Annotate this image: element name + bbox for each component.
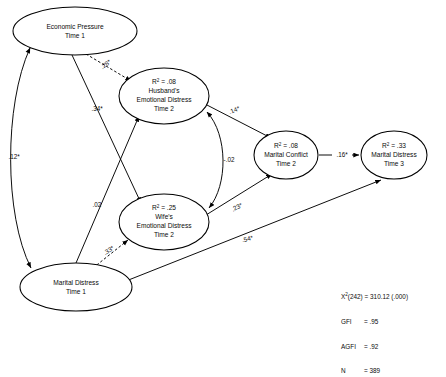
node-layer: Economic Pressure Time 1 R2 = .08 Husban…	[13, 7, 427, 311]
node-marital-conflict-t2[interactable]: R2 = .08 Marital Conflict Time 2	[254, 131, 318, 179]
edge-label-ep-corr-md1: .12*	[8, 153, 20, 160]
agfi-value: = .92	[364, 343, 378, 350]
node-label-line1: Economic Pressure	[46, 23, 104, 30]
node-label-line1: Marital Distress	[371, 151, 417, 158]
node-label-line1: Marital Distress	[53, 279, 99, 286]
edge-ep-to-husband	[86, 54, 131, 81]
node-r2: R2 = .33	[382, 142, 406, 150]
edge-label-husband-to-conflict: .14*	[227, 104, 241, 115]
fit-stat-chisquare: X2(242) = 310.12 (.000)	[341, 291, 408, 301]
edge-label-wife-to-conflict: .23*	[230, 201, 244, 213]
node-economic-pressure-t1[interactable]: Economic Pressure Time 1	[13, 7, 137, 55]
node-ellipse[interactable]	[13, 7, 137, 55]
edge-label-ep-to-wife: .34*	[91, 105, 103, 112]
fit-statistics-block: X2(242) = 310.12 (.000) GFI= .95 AGFI= .…	[341, 275, 408, 377]
node-marital-distress-t3[interactable]: R2 = .33 Marital Distress Time 3	[361, 131, 427, 179]
n-label: N	[341, 367, 364, 375]
chisq-value: = 310.12 (.000)	[363, 294, 408, 301]
node-marital-distress-t1[interactable]: Marital Distress Time 1	[20, 263, 132, 311]
edge-label-conflict-to-md3: .16*	[336, 151, 348, 158]
node-r2: R2 = .25	[152, 204, 176, 212]
fit-stat-gfi: GFI= .95	[341, 318, 408, 326]
edge-label-husband-corr-wife: -.02	[224, 156, 235, 163]
node-label-line1: Marital Conflict	[264, 151, 308, 158]
node-husband-distress-t2[interactable]: R2 = .08 Husband's Emotional Distress Ti…	[119, 68, 209, 124]
node-label-line2: Time 2	[276, 160, 296, 167]
node-r2: R2 = .08	[274, 142, 298, 150]
node-label-line2: Emotional Distress	[137, 222, 193, 229]
agfi-label: AGFI	[341, 343, 364, 351]
node-label-line3: Time 2	[154, 105, 174, 112]
edge-label-md1-to-husband: .02	[93, 201, 102, 208]
node-ellipse[interactable]	[20, 263, 132, 311]
node-wife-distress-t2[interactable]: R2 = .25 Wife's Emotional Distress Time …	[119, 194, 209, 250]
gfi-label: GFI	[341, 318, 364, 326]
n-value: = 389	[364, 367, 380, 374]
edge-md1-to-husband	[76, 116, 139, 263]
edge-husband-corr-wife	[207, 112, 223, 208]
node-label-line3: Time 2	[154, 231, 174, 238]
edge-label-md1-to-wife: .33*	[102, 244, 116, 256]
node-label-line2: Time 1	[66, 288, 86, 295]
gfi-value: = .95	[364, 318, 378, 325]
node-label-line2: Time 3	[384, 160, 404, 167]
edge-label-md1-to-md3: .54*	[241, 234, 254, 244]
node-label-line2: Time 1	[65, 32, 85, 39]
node-label-line1: Wife's	[155, 213, 173, 220]
node-label-line1: Husband's	[149, 87, 181, 94]
node-label-line2: Emotional Distress	[137, 96, 193, 103]
node-r2: R2 = .08	[152, 78, 176, 86]
fit-stat-n: N= 389	[341, 367, 408, 375]
fit-stat-agfi: AGFI= .92	[341, 343, 408, 351]
chisq-df: (242)	[348, 294, 363, 301]
